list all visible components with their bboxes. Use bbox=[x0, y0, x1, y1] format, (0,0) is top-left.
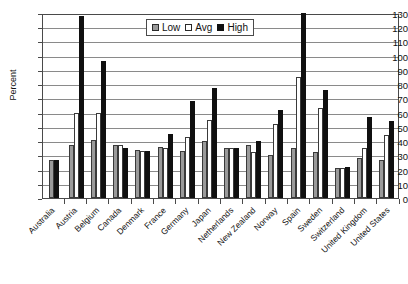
x-axis-tick-label: Australia bbox=[27, 206, 57, 236]
legend-item-low: Low bbox=[152, 22, 180, 33]
y-axis-tick-label: 30 bbox=[368, 152, 408, 161]
x-axis-label-cell: France bbox=[154, 201, 176, 283]
plot-area bbox=[42, 14, 399, 199]
bar-high bbox=[301, 13, 306, 198]
bar-group bbox=[221, 15, 243, 198]
y-axis-tick-label: 80 bbox=[368, 81, 408, 90]
y-axis-tick-mark bbox=[38, 85, 42, 86]
bar-high bbox=[168, 134, 173, 198]
y-axis-tick-label: 10 bbox=[368, 180, 408, 189]
y-axis-tick-mark bbox=[38, 128, 42, 129]
x-axis-label-cell: Denmark bbox=[131, 201, 153, 283]
y-axis-tick-mark bbox=[38, 171, 42, 172]
y-axis-title: Percent bbox=[8, 50, 18, 120]
y-axis-tick-mark bbox=[38, 14, 42, 15]
bar-group bbox=[43, 15, 65, 198]
y-axis-tick-label: 90 bbox=[368, 66, 408, 75]
bar-group bbox=[65, 15, 87, 198]
x-axis-label-cell: United States bbox=[377, 201, 399, 283]
bar-high bbox=[278, 110, 283, 198]
bar-group bbox=[154, 15, 176, 198]
legend-label-low: Low bbox=[162, 22, 180, 33]
legend-swatch-avg-icon bbox=[185, 24, 192, 31]
x-axis-labels: AustraliaAustriaBelgiumCanadaDenmarkFran… bbox=[42, 201, 399, 283]
y-axis-tick-mark bbox=[38, 42, 42, 43]
bar-high bbox=[79, 16, 84, 198]
bar-high bbox=[190, 101, 195, 198]
bar-high bbox=[54, 160, 59, 198]
bar-high bbox=[123, 148, 128, 198]
x-axis-label-cell: Canada bbox=[109, 201, 131, 283]
chart-title-cropped bbox=[40, 0, 280, 9]
y-axis-tick-mark bbox=[38, 142, 42, 143]
bar-group bbox=[287, 15, 309, 198]
x-axis-label-cell: Austria bbox=[64, 201, 86, 283]
bar-group bbox=[243, 15, 265, 198]
chart-legend: Low Avg High bbox=[146, 19, 254, 36]
x-axis-label-cell: Belgium bbox=[87, 201, 109, 283]
y-axis-tick-mark bbox=[38, 71, 42, 72]
y-axis-tick-mark bbox=[38, 156, 42, 157]
legend-swatch-high-icon bbox=[217, 24, 224, 31]
y-axis-tick-mark bbox=[38, 99, 42, 100]
bar-high bbox=[212, 88, 217, 198]
y-axis-tick-mark bbox=[38, 28, 42, 29]
y-axis-tick-label: 110 bbox=[368, 38, 408, 47]
bar-chart: Percent 1301201101009080706050403020100 … bbox=[0, 0, 408, 284]
bar-group bbox=[87, 15, 109, 198]
y-axis-tick-label: 40 bbox=[368, 138, 408, 147]
bar-high bbox=[101, 61, 106, 198]
y-axis-tick-label: 20 bbox=[368, 166, 408, 175]
x-axis-label-cell: Australia bbox=[42, 201, 64, 283]
bar-high bbox=[256, 141, 261, 198]
y-axis-tick-label: 130 bbox=[368, 10, 408, 19]
y-axis-tick-mark bbox=[38, 185, 42, 186]
legend-swatch-low-icon bbox=[152, 24, 159, 31]
x-axis-label-cell: Germany bbox=[176, 201, 198, 283]
y-axis-tick-mark bbox=[38, 57, 42, 58]
bar-group bbox=[132, 15, 154, 198]
y-axis-tick-label: 120 bbox=[368, 24, 408, 33]
x-axis-label-cell: Norway bbox=[265, 201, 287, 283]
legend-label-avg: Avg bbox=[195, 22, 212, 33]
bar-group bbox=[198, 15, 220, 198]
bar-group bbox=[265, 15, 287, 198]
y-axis-tick-mark bbox=[38, 114, 42, 115]
legend-item-avg: Avg bbox=[185, 22, 212, 33]
bar-groups bbox=[43, 15, 398, 198]
bar-high bbox=[234, 148, 239, 198]
y-axis-tick-label: 100 bbox=[368, 52, 408, 61]
bar-high bbox=[323, 90, 328, 198]
x-axis-label-cell: Spain bbox=[287, 201, 309, 283]
bar-high bbox=[145, 151, 150, 198]
bar-group bbox=[110, 15, 132, 198]
bar-group bbox=[331, 15, 353, 198]
legend-label-high: High bbox=[227, 22, 248, 33]
y-axis-tick-label: 70 bbox=[368, 95, 408, 104]
y-axis-tick-label: 50 bbox=[368, 123, 408, 132]
bar-group bbox=[309, 15, 331, 198]
bar-high bbox=[345, 167, 350, 198]
x-axis-label-cell: New Zealand bbox=[243, 201, 265, 283]
bar-group bbox=[176, 15, 198, 198]
legend-item-high: High bbox=[217, 22, 248, 33]
y-axis-tick-label: 60 bbox=[368, 109, 408, 118]
